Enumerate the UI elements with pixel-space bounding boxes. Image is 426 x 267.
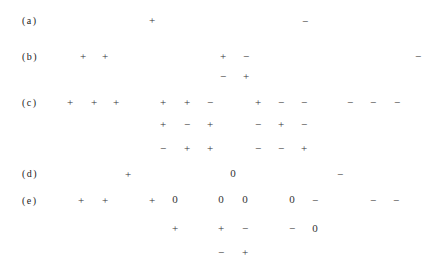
minus-sign: − [301,97,307,108]
minus-sign: − [278,97,284,108]
plus-sign: + [207,143,213,154]
plus-sign: + [102,195,108,206]
minus-sign: − [301,119,307,130]
minus-sign: − [394,97,400,108]
row-label: (c) [22,97,38,108]
plus-sign: + [184,97,190,108]
plus-sign: + [67,97,73,108]
row-label: (a) [22,15,38,26]
minus-sign: − [289,223,295,234]
plus-sign: + [255,97,261,108]
minus-sign: − [220,71,226,82]
plus-sign: + [243,71,249,82]
row-label: (b) [22,51,38,62]
minus-sign: − [370,97,376,108]
minus-sign: − [242,223,248,234]
plus-sign: + [242,247,248,258]
minus-sign: − [278,143,284,154]
minus-sign: − [312,195,318,206]
minus-sign: − [218,247,224,258]
minus-sign: − [255,119,261,130]
plus-sign: + [78,195,84,206]
zero-sign: 0 [218,194,224,205]
zero-sign: 0 [289,194,295,205]
minus-sign: − [184,119,190,130]
zero-sign: 0 [172,194,178,205]
minus-sign: − [347,97,353,108]
plus-sign: + [149,195,155,206]
row-label: (e) [22,195,38,206]
minus-sign: − [255,143,261,154]
minus-sign: − [302,16,308,27]
minus-sign: − [160,143,166,154]
plus-sign: + [301,143,307,154]
plus-sign: + [184,143,190,154]
minus-sign: − [393,195,399,206]
plus-sign: + [218,223,224,234]
plus-sign: + [80,51,86,62]
row-label: (d) [22,168,38,179]
plus-sign: + [172,223,178,234]
zero-sign: 0 [242,194,248,205]
plus-sign: + [91,97,97,108]
plus-sign: + [113,97,119,108]
minus-sign: − [243,51,249,62]
plus-sign: + [278,119,284,130]
minus-sign: − [337,169,343,180]
minus-sign: − [415,51,421,62]
plus-sign: + [160,119,166,130]
plus-sign: + [220,51,226,62]
plus-sign: + [207,119,213,130]
minus-sign: − [370,195,376,206]
plus-sign: + [125,169,131,180]
zero-sign: 0 [230,168,236,179]
zero-sign: 0 [312,223,318,234]
plus-sign: + [102,51,108,62]
plus-sign: + [160,97,166,108]
minus-sign: − [207,97,213,108]
plus-sign: + [149,15,155,26]
